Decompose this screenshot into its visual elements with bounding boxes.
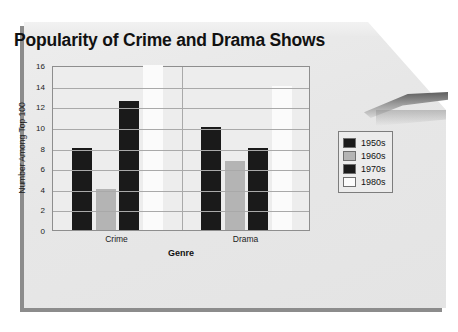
chart-title: Popularity of Crime and Drama Shows — [14, 30, 354, 51]
y-axis-tick-label: 0 — [41, 227, 45, 236]
gridline — [53, 211, 309, 212]
gridline — [53, 88, 309, 89]
legend-swatch-icon — [343, 138, 356, 148]
curled-corner-shadow — [376, 110, 446, 126]
gridline — [53, 108, 309, 109]
legend-swatch-icon — [343, 164, 356, 174]
legend-item-1950s: 1950s — [343, 136, 386, 149]
legend-item-label: 1960s — [361, 151, 386, 161]
y-axis-tick-label: 12 — [36, 103, 45, 112]
legend-item-label: 1980s — [361, 177, 386, 187]
legend-item-1960s: 1960s — [343, 149, 386, 162]
legend-item-1980s: 1980s — [343, 175, 386, 188]
legend-item-1970s: 1970s — [343, 162, 386, 175]
legend-item-label: 1950s — [361, 138, 386, 148]
y-axis-tick-label: 10 — [36, 123, 45, 132]
bar-crime-1960s — [96, 189, 116, 230]
chart-page: Popularity of Crime and Drama Shows Numb… — [0, 0, 458, 332]
y-axis-tick-label: 16 — [36, 62, 45, 71]
x-axis-tick-label: Drama — [233, 234, 259, 244]
legend-swatch-icon — [343, 151, 356, 161]
x-axis-title: Genre — [52, 248, 310, 258]
y-axis-tick-label: 6 — [41, 165, 45, 174]
gridline — [53, 170, 309, 171]
bar-drama-1970s — [248, 148, 268, 231]
gridline — [53, 150, 309, 151]
gridline — [53, 129, 309, 130]
group-separator — [182, 67, 183, 230]
y-axis-title: Number Among Top 100 — [15, 62, 29, 234]
y-axis-ticks: 0246810121416 — [28, 62, 48, 234]
bar-crime-1980s — [143, 65, 163, 230]
y-axis-tick-label: 2 — [41, 206, 45, 215]
legend-item-label: 1970s — [361, 164, 386, 174]
chart-legend: 1950s1960s1970s1980s — [338, 131, 393, 193]
bar-series-container — [53, 67, 309, 230]
y-axis-title-text: Number Among Top 100 — [17, 102, 27, 194]
legend-swatch-icon — [343, 177, 356, 187]
bar-crime-1950s — [72, 148, 92, 231]
gridline — [53, 191, 309, 192]
y-axis-tick-label: 8 — [41, 144, 45, 153]
x-axis-ticks: CrimeDrama — [52, 234, 310, 248]
chart-plot-wrapper: Number Among Top 100 0246810121416 Crime… — [14, 62, 314, 272]
bar-drama-1950s — [201, 127, 221, 230]
y-axis-tick-label: 14 — [36, 82, 45, 91]
y-axis-tick-label: 4 — [41, 185, 45, 194]
x-axis-tick-label: Crime — [105, 234, 128, 244]
bar-drama-1960s — [225, 161, 245, 230]
plot-area — [52, 66, 310, 231]
